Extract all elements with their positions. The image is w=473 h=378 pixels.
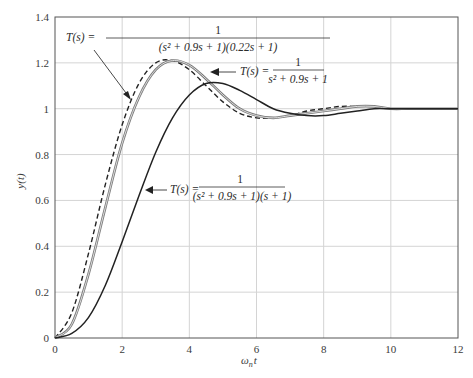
step-response-chart: 024681012 00.20.40.60.811.21.4 ωnt y(t) … — [0, 0, 473, 378]
svg-text:1: 1 — [237, 173, 243, 185]
y-tick-label: 0 — [44, 332, 50, 344]
x-axis-label: ωnt — [241, 354, 258, 369]
y-tick-label: 1.4 — [35, 11, 49, 23]
annotation-second-order: T(s) = 1 s² + 0.9s + 1 — [210, 56, 328, 85]
x-tick-label: 12 — [453, 343, 464, 355]
arrow-line — [94, 50, 129, 97]
x-tick-label: 2 — [119, 343, 125, 355]
annotation-third-order-fast-pole: T(s) = 1 (s² + 0.9s + 1)(0.22s + 1) — [66, 24, 330, 100]
y-tick-label: 0.6 — [35, 194, 49, 206]
annotation-third-order-slow-pole: T(s) = 1 (s² + 0.9s + 1)(s + 1) — [145, 173, 291, 203]
x-axis-ticks: 024681012 — [52, 343, 463, 355]
arrow-head-icon — [145, 186, 153, 194]
x-tick-label: 0 — [52, 343, 58, 355]
svg-text:(s² + 0.9s + 1)(s + 1): (s² + 0.9s + 1)(s + 1) — [193, 190, 292, 203]
y-tick-label: 0.4 — [35, 240, 49, 252]
svg-text:s² + 0.9s + 1: s² + 0.9s + 1 — [268, 73, 328, 85]
y-tick-label: 0.2 — [35, 286, 49, 298]
x-tick-label: 4 — [187, 343, 193, 355]
svg-text:T(s) =: T(s) = — [240, 65, 269, 78]
svg-text:1: 1 — [215, 24, 221, 36]
x-tick-label: 10 — [385, 343, 397, 355]
x-tick-label: 8 — [321, 343, 327, 355]
svg-text:1: 1 — [295, 56, 301, 68]
svg-text:T(s) =: T(s) = — [66, 31, 95, 44]
svg-text:(s² + 0.9s + 1)(0.22s + 1): (s² + 0.9s + 1)(0.22s + 1) — [159, 41, 278, 54]
y-axis-ticks: 00.20.40.60.811.21.4 — [35, 11, 49, 344]
y-tick-label: 1 — [44, 103, 50, 115]
arrow-head-icon — [123, 91, 131, 100]
y-tick-label: 1.2 — [35, 57, 49, 69]
y-axis-label: y(t) — [14, 173, 27, 190]
arrow-head-icon — [210, 68, 219, 76]
y-tick-label: 0.8 — [35, 149, 49, 161]
